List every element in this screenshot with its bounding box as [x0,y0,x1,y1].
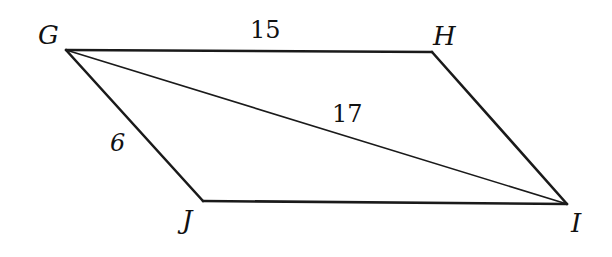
diagonal-length-gi: 17 [332,100,363,128]
edge-length-jg: 6 [110,129,125,157]
vertex-label-h: H [432,21,457,51]
edge-gh [66,50,432,52]
edge-ij [203,201,567,204]
vertex-label-i: I [570,208,582,238]
vertex-label-g: G [38,20,59,50]
edge-hi [432,52,567,204]
parallelogram-diagram: G H I J 15 6 17 [0,0,612,257]
vertex-label-j: J [177,205,194,235]
edge-jg [66,50,203,201]
diagonal-gi [66,50,567,204]
edge-length-gh: 15 [250,16,281,44]
